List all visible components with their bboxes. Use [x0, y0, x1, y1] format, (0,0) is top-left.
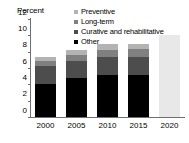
legend-item-label: Preventive [81, 7, 115, 16]
bar-segment [35, 84, 56, 117]
bar-segment [66, 61, 87, 78]
y-axis-tick-mark [28, 52, 30, 53]
y-axis-tick-label: 6 [23, 58, 27, 66]
bar-segment [97, 57, 118, 75]
y-axis-tick-label: 8 [23, 41, 27, 49]
bar-group[interactable] [128, 18, 149, 117]
bar-segment [35, 66, 56, 83]
y-axis-tick-mark [28, 19, 30, 20]
bar-group[interactable] [159, 18, 180, 117]
bar-segment [66, 50, 87, 55]
y-axis-tick-mark [28, 35, 30, 36]
bar-segment [35, 61, 56, 67]
bar-segment [66, 78, 87, 117]
x-axis-tick-label: 2020 [150, 121, 189, 130]
x-axis-line [30, 117, 185, 118]
y-axis-tick-label: 12 [18, 9, 27, 17]
y-axis-tick-label: 4 [23, 74, 27, 82]
bar-segment [97, 50, 118, 57]
bar-group[interactable] [66, 18, 87, 117]
y-axis-tick-mark [28, 68, 30, 69]
y-axis-tick-label: 2 [23, 90, 27, 98]
y-axis-tick-mark [28, 101, 30, 102]
bar-segment-projection [159, 35, 180, 117]
legend-item[interactable]: Preventive [74, 7, 188, 16]
y-axis-line [30, 18, 31, 118]
y-axis-tick-mark [28, 84, 30, 85]
bar-segment [35, 57, 56, 61]
y-axis-tick-label: 0 [23, 107, 27, 115]
bar-segment [128, 57, 149, 76]
y-axis-tick-label: 10 [18, 25, 27, 33]
legend-swatch-icon [74, 10, 78, 14]
bar-segment [66, 55, 87, 61]
bar-group[interactable] [35, 18, 56, 117]
bar-group[interactable] [97, 18, 118, 117]
y-axis-tick-mark [28, 117, 30, 118]
bar-segment [128, 75, 149, 117]
bar-segment [128, 49, 149, 56]
plot-area: 024681012 [30, 19, 185, 118]
bar-segment [97, 44, 118, 50]
chart-container: Percent PreventiveLong-termCurative and … [0, 0, 188, 143]
bar-segment [97, 75, 118, 117]
bar-segment [128, 44, 149, 50]
